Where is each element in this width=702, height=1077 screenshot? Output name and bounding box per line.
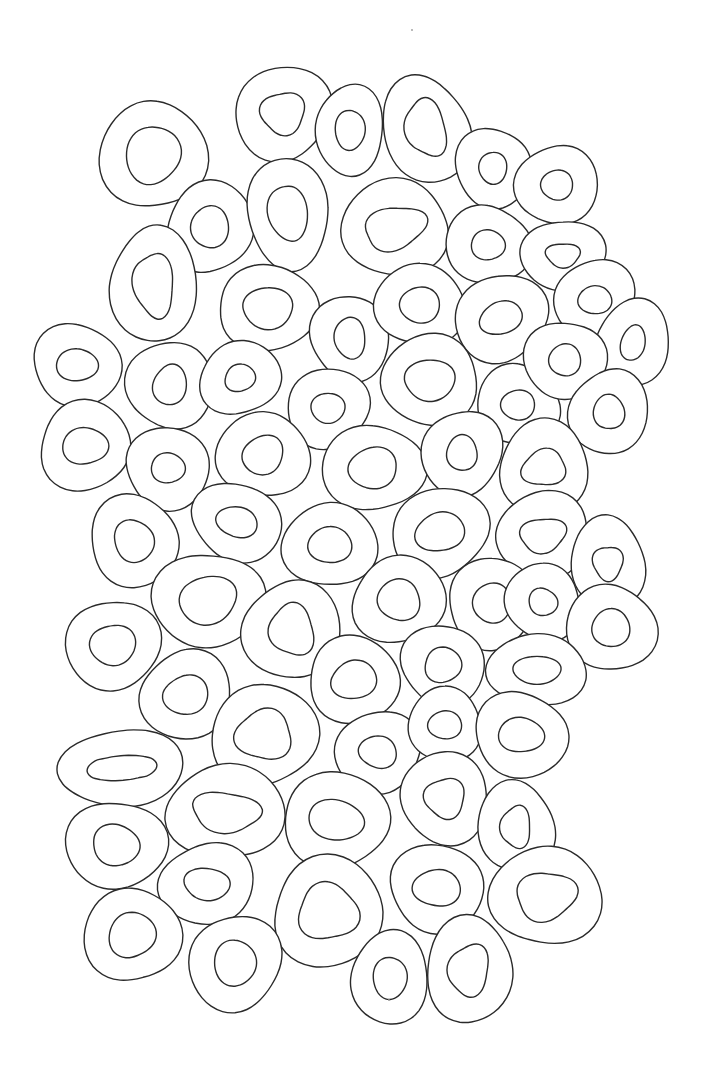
ring-shape (165, 763, 285, 856)
ring-shape (446, 205, 533, 283)
stray-speck (388, 999, 390, 1001)
ring-inner-hole (87, 755, 157, 780)
ring-shape (428, 914, 513, 1022)
ring-shape (57, 730, 183, 807)
ring-shape (65, 803, 168, 889)
ring-shape (247, 159, 328, 272)
ring-shape (34, 324, 122, 408)
stray-speck (411, 29, 413, 31)
ring-shape (109, 225, 196, 341)
ring-inner-hole (501, 390, 535, 420)
ring-group (34, 67, 668, 1024)
ring-inner-hole (513, 656, 561, 684)
ring-shape (421, 412, 503, 498)
ring-pattern-artwork (0, 0, 702, 1077)
ring-inner-hole (541, 170, 573, 200)
ring-inner-hole (311, 393, 345, 423)
ring-shape (281, 502, 378, 584)
ring-shape (400, 752, 486, 846)
ring-shape (189, 917, 282, 1013)
ring-shape (221, 265, 320, 351)
ring-shape (200, 340, 282, 414)
ring-shape (311, 635, 401, 724)
ring-shape (341, 178, 449, 276)
ring-shape (41, 399, 130, 491)
ring-shape (373, 263, 465, 344)
